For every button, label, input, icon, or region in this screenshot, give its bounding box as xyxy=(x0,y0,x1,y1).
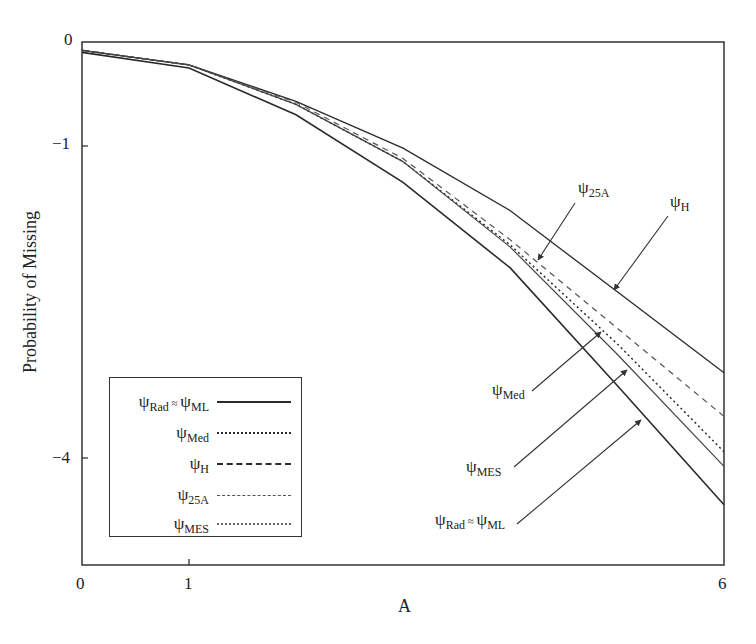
legend-swatch-fine-dotted xyxy=(217,523,291,525)
x-tick-0: 0 xyxy=(76,574,85,594)
y-tick-0: 0 xyxy=(64,30,73,50)
series-h xyxy=(82,50,724,372)
legend: ψRad ≈ ψML ψMed ψH ψ25A ψMES xyxy=(109,377,302,537)
legend-swatch-dotted xyxy=(217,432,291,434)
annotation-med: ψMed xyxy=(492,380,525,400)
x-axis-title: A xyxy=(398,596,411,617)
x-tick-1: 1 xyxy=(184,574,193,594)
annotation-h: ψH xyxy=(670,192,689,212)
arrow-mes xyxy=(514,370,627,467)
arrow-h xyxy=(614,216,668,290)
annotation-arrows xyxy=(514,203,668,524)
arrow-ml xyxy=(517,420,641,524)
legend-swatch-dashed xyxy=(217,495,291,496)
legend-swatch-solid xyxy=(217,401,291,403)
legend-item-ml: ψRad ≈ ψML xyxy=(109,392,291,412)
chart-canvas xyxy=(0,0,756,644)
y-tick-minus-1: −1 xyxy=(52,134,70,154)
series-25a xyxy=(82,50,724,416)
x-tick-6: 6 xyxy=(718,574,727,594)
legend-item-25a: ψ25A xyxy=(109,485,291,505)
legend-item-h: ψH xyxy=(109,454,291,474)
y-axis-title: Probability of Missing xyxy=(20,211,41,373)
arrow-25a xyxy=(538,203,575,260)
annotation-25a: ψ25A xyxy=(578,178,609,198)
annotation-mes: ψMES xyxy=(466,457,501,477)
legend-swatch-dashdot xyxy=(217,463,291,465)
annotation-ml: ψRad ≈ ψML xyxy=(435,510,505,530)
arrow-med xyxy=(532,332,601,391)
y-ticks xyxy=(82,146,88,458)
legend-item-med: ψMed xyxy=(109,423,291,443)
y-tick-minus-4: −4 xyxy=(52,448,70,468)
legend-item-mes: ψMES xyxy=(109,514,291,534)
